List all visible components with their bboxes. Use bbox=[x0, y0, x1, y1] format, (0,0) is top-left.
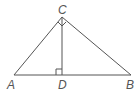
label-d: D bbox=[58, 78, 67, 92]
right-angle-mark-d bbox=[56, 69, 62, 75]
segment-bc bbox=[62, 17, 131, 75]
label-a: A bbox=[6, 78, 15, 92]
triangle-diagram: C A D B bbox=[0, 0, 138, 94]
label-b: B bbox=[126, 78, 134, 92]
segment-ac bbox=[14, 17, 62, 75]
label-c: C bbox=[58, 3, 67, 17]
